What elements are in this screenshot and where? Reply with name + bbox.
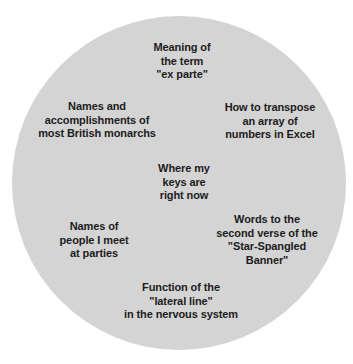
label-names-of-people-at-parties: Names of people I meet at parties [36,220,152,261]
label-lateral-line: Function of the "lateral line" in the ne… [108,281,254,322]
label-where-my-keys-are: Where my keys are right now [137,162,231,203]
label-excel-transpose: How to transpose an array of numbers in … [210,101,330,142]
label-star-spangled-banner: Words to the second verse of the "Star-S… [198,213,336,267]
diagram-canvas: Meaning of the term "ex parte" Names and… [0,0,353,364]
label-british-monarchs: Names and accomplishments of most Britis… [22,100,172,141]
label-ex-parte: Meaning of the term "ex parte" [120,41,244,82]
